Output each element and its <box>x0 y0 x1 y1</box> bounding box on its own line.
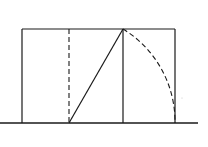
golden-rectangle-diagram <box>0 0 208 147</box>
diagonal-radius <box>69 29 123 123</box>
speck <box>182 98 183 99</box>
dashed-arc <box>123 29 175 123</box>
